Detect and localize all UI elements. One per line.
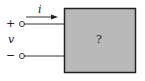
minus-label: −	[6, 50, 15, 61]
plus-label: +	[6, 18, 15, 29]
current-label: i	[38, 4, 42, 15]
voltage-label: v	[8, 34, 14, 45]
current-arrow-icon	[51, 15, 58, 20]
box-label: ?	[96, 34, 102, 45]
top-terminal	[20, 22, 25, 27]
bottom-terminal	[20, 54, 25, 59]
circuit-diagram	[0, 0, 145, 81]
